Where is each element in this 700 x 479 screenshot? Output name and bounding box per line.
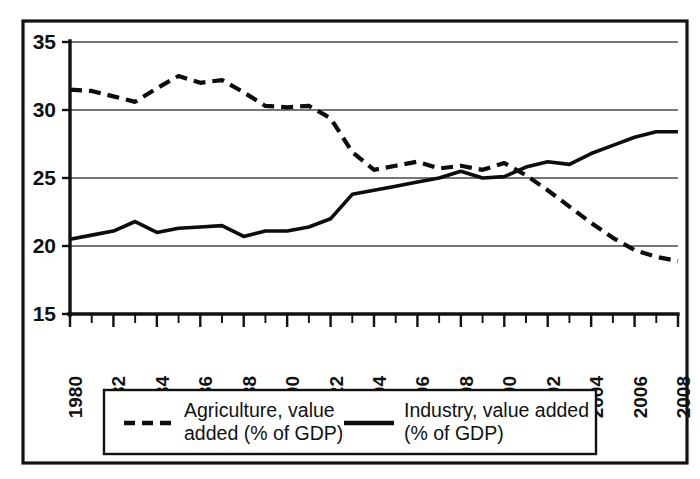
- y-tick-label-30: 30: [33, 98, 56, 121]
- y-tick-label-35: 35: [33, 30, 57, 53]
- x-tick-label-2008: 2008: [673, 376, 694, 418]
- legend: Agriculture, value added (% of GDP) Indu…: [104, 390, 596, 454]
- x-tick-label-2006: 2006: [630, 376, 651, 418]
- legend-label-agriculture-line2: added (% of GDP): [184, 422, 343, 444]
- legend-label-industry-line1: Industry, value added: [404, 399, 589, 421]
- y-tick-label-25: 25: [33, 166, 57, 189]
- line-chart-figure: 1520253035 19801982198419861988199019221…: [0, 0, 700, 479]
- y-tick-label-15: 15: [33, 302, 57, 325]
- y-tick-label-20: 20: [33, 234, 56, 257]
- legend-label-agriculture-line1: Agriculture, value: [184, 399, 335, 421]
- legend-label-industry-line2: (% of GDP): [404, 422, 504, 444]
- x-tick-label-1980: 1980: [65, 376, 86, 418]
